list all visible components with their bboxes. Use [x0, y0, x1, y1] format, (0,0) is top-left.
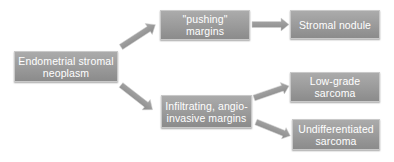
- arrow-root-to-infiltrating: [117, 80, 157, 115]
- node-label: Endometrial stromal neoplasm: [18, 55, 113, 79]
- node-label: "pushing" margins: [182, 13, 227, 37]
- node-endometrial-stromal-neoplasm: Endometrial stromal neoplasm: [14, 51, 118, 82]
- flowchart-diagram: Endometrial stromal neoplasm "pushing" m…: [0, 0, 394, 162]
- node-low-grade-sarcoma: Low-grade sarcoma: [290, 72, 380, 102]
- node-label: Undifferentiated sarcoma: [298, 123, 374, 147]
- node-label: Infiltrating, angio- invasive margins: [165, 100, 248, 124]
- node-label: Low-grade sarcoma: [310, 75, 361, 99]
- node-pushing-margins: "pushing" margins: [160, 10, 250, 40]
- arrow-infiltrating-to-lowgrade: [252, 80, 291, 103]
- node-stromal-nodule: Stromal nodule: [290, 10, 380, 39]
- arrow-infiltrating-to-undiff: [254, 116, 293, 141]
- arrow-root-to-pushing: [117, 19, 158, 52]
- arrow-pushing-to-stromal: [252, 18, 289, 31]
- node-undifferentiated-sarcoma: Undifferentiated sarcoma: [292, 119, 380, 150]
- node-infiltrating-margins: Infiltrating, angio- invasive margins: [161, 95, 252, 128]
- node-label: Stromal nodule: [299, 19, 371, 31]
